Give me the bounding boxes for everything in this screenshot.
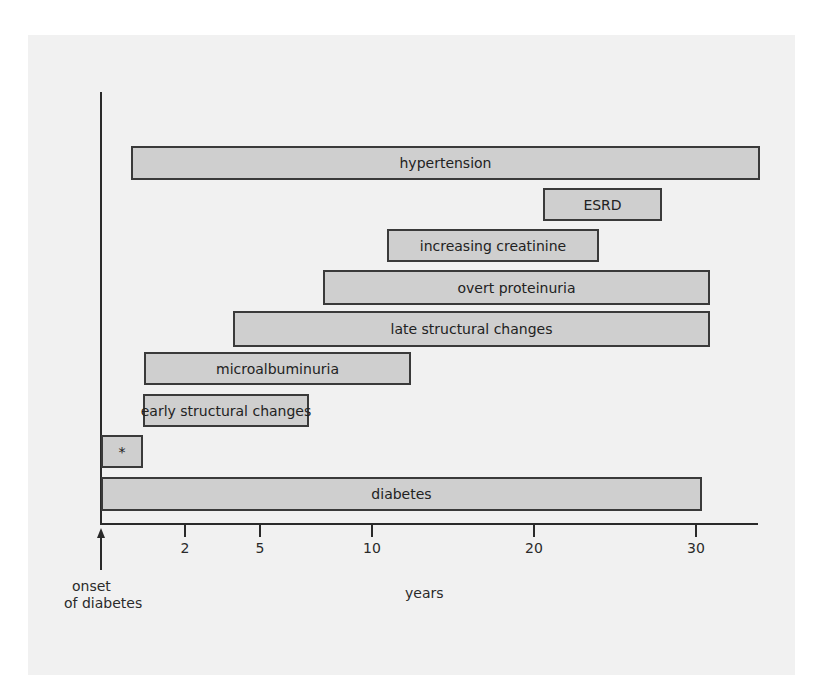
x-tick bbox=[533, 525, 535, 537]
bar-late-structural-changes: late structural changes bbox=[233, 311, 710, 347]
x-tick bbox=[695, 525, 697, 537]
bar-diabetes: diabetes bbox=[101, 477, 702, 511]
bar-label: early structural changes bbox=[141, 403, 312, 419]
onset-arrow-icon bbox=[97, 528, 105, 570]
bar-hypertension: hypertension bbox=[131, 146, 760, 180]
bar-asterisk: * bbox=[101, 435, 143, 468]
bar-label: late structural changes bbox=[391, 321, 553, 337]
x-axis-line bbox=[100, 523, 758, 525]
bar-overt-proteinuria: overt proteinuria bbox=[323, 270, 710, 305]
bar-label: hypertension bbox=[399, 155, 491, 171]
onset-label: onset of diabetes bbox=[64, 578, 154, 612]
bar-label: diabetes bbox=[371, 486, 431, 502]
x-tick bbox=[259, 525, 261, 537]
bar-early-structural-changes: early structural changes bbox=[143, 394, 309, 427]
onset-label-line2: of diabetes bbox=[64, 595, 154, 612]
bar-microalbuminuria: microalbuminuria bbox=[144, 352, 411, 385]
x-tick-label: 2 bbox=[165, 540, 205, 556]
x-tick-label: 20 bbox=[514, 540, 554, 556]
bar-increasing-creatinine: increasing creatinine bbox=[387, 229, 599, 262]
x-tick-label: 5 bbox=[240, 540, 280, 556]
bar-label: * bbox=[119, 444, 126, 460]
onset-label-line1: onset bbox=[64, 578, 154, 595]
x-tick bbox=[371, 525, 373, 537]
x-tick-label: 10 bbox=[352, 540, 392, 556]
bar-label: ESRD bbox=[583, 197, 621, 213]
bar-label: increasing creatinine bbox=[420, 238, 566, 254]
x-tick-label: 30 bbox=[676, 540, 716, 556]
x-axis-label: years bbox=[405, 585, 444, 601]
x-tick bbox=[184, 525, 186, 537]
bar-label: microalbuminuria bbox=[216, 361, 339, 377]
bar-label: overt proteinuria bbox=[457, 280, 575, 296]
bar-esrd: ESRD bbox=[543, 188, 662, 221]
